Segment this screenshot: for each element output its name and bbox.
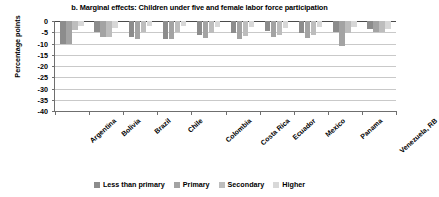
y-tick-label: -25 bbox=[0, 73, 48, 82]
bar bbox=[271, 21, 276, 37]
bar bbox=[197, 21, 202, 35]
x-tick-label: Argentina bbox=[88, 117, 117, 144]
bar-set bbox=[89, 21, 123, 111]
bar bbox=[129, 21, 134, 37]
x-tick-label: Panama bbox=[359, 117, 384, 140]
y-tick-label: -10 bbox=[0, 39, 48, 48]
bar bbox=[203, 21, 208, 38]
x-tick-mark bbox=[226, 111, 227, 115]
bar bbox=[147, 21, 152, 26]
bar bbox=[175, 21, 180, 32]
bar-set bbox=[157, 21, 191, 111]
x-tick-mark bbox=[260, 111, 261, 115]
bar bbox=[317, 21, 322, 27]
bar-set bbox=[294, 21, 328, 111]
bar bbox=[367, 21, 372, 29]
bar bbox=[243, 21, 248, 36]
x-tick-label: Colombia bbox=[224, 117, 252, 144]
bar bbox=[351, 21, 356, 27]
bar bbox=[339, 21, 344, 46]
x-tick-label: Bolivia bbox=[120, 117, 142, 138]
bar bbox=[163, 21, 168, 39]
bar bbox=[237, 21, 242, 39]
bar-group bbox=[226, 21, 260, 111]
x-tick-label: Brazil bbox=[153, 117, 172, 135]
bar bbox=[373, 21, 378, 32]
bar-group bbox=[294, 21, 328, 111]
bar-set bbox=[226, 21, 260, 111]
plot-area: 0-5-10-15-20-25-30-35-40ArgentinaBolivia… bbox=[54, 21, 395, 111]
bar-group bbox=[55, 21, 89, 111]
chart-title: b. Marginal effects: Children under five… bbox=[0, 3, 399, 12]
x-tick-mark bbox=[362, 111, 363, 115]
bar bbox=[181, 21, 186, 26]
bar-set bbox=[55, 21, 89, 111]
bar bbox=[100, 21, 105, 37]
legend-swatch bbox=[94, 182, 100, 188]
legend-label: Less than primary bbox=[103, 180, 165, 189]
bar bbox=[169, 21, 174, 39]
bar bbox=[215, 21, 220, 27]
legend-item[interactable]: Primary bbox=[174, 180, 210, 189]
x-tick-label: Costa Rica bbox=[259, 117, 291, 146]
x-tick-mark bbox=[191, 111, 192, 115]
bar bbox=[209, 21, 214, 33]
x-tick-mark bbox=[396, 111, 397, 115]
bar-group bbox=[362, 21, 396, 111]
y-tick-label: -30 bbox=[0, 84, 48, 93]
bar-set bbox=[328, 21, 362, 111]
x-tick-mark bbox=[89, 111, 90, 115]
y-tick-label: -35 bbox=[0, 95, 48, 104]
bar-set bbox=[260, 21, 294, 111]
y-axis-label: Percentage points bbox=[13, 0, 22, 97]
bar-set bbox=[123, 21, 157, 111]
x-tick-label: Ecuador bbox=[291, 117, 317, 141]
bar bbox=[112, 21, 117, 28]
bar bbox=[249, 21, 254, 27]
bar bbox=[72, 21, 77, 30]
x-tick-label: Mexico bbox=[324, 117, 346, 138]
bar bbox=[106, 21, 111, 37]
x-tick-mark bbox=[55, 111, 56, 115]
bar bbox=[94, 21, 99, 32]
bar-group bbox=[89, 21, 123, 111]
y-tick-label: -20 bbox=[0, 62, 48, 71]
bar bbox=[66, 21, 71, 44]
bar-group bbox=[260, 21, 294, 111]
chart-legend: Less than primaryPrimarySecondaryHigher bbox=[0, 180, 399, 189]
legend-item[interactable]: Higher bbox=[273, 180, 305, 189]
bar bbox=[283, 21, 288, 28]
legend-swatch bbox=[174, 182, 180, 188]
bar bbox=[78, 21, 83, 26]
bar-group bbox=[328, 21, 362, 111]
bar bbox=[231, 21, 236, 33]
legend-item[interactable]: Secondary bbox=[219, 180, 265, 189]
x-tick-mark bbox=[123, 111, 124, 115]
bar bbox=[345, 21, 350, 33]
bar bbox=[141, 21, 146, 32]
bar-set bbox=[362, 21, 396, 111]
legend-label: Higher bbox=[282, 180, 305, 189]
bar bbox=[277, 21, 282, 35]
y-tick-label: -40 bbox=[0, 107, 48, 116]
bar-set bbox=[191, 21, 225, 111]
y-tick-label: -15 bbox=[0, 50, 48, 59]
bar-group bbox=[191, 21, 225, 111]
bar-group bbox=[157, 21, 191, 111]
bar bbox=[265, 21, 270, 31]
bar bbox=[385, 21, 390, 29]
legend-label: Primary bbox=[183, 180, 210, 189]
bar bbox=[299, 21, 304, 33]
bar bbox=[135, 21, 140, 39]
bar bbox=[60, 21, 65, 44]
bar bbox=[311, 21, 316, 35]
x-tick-mark bbox=[294, 111, 295, 115]
legend-swatch bbox=[219, 182, 225, 188]
x-tick-label: Venezuela, RB bbox=[399, 117, 439, 154]
x-tick-mark bbox=[328, 111, 329, 115]
legend-swatch bbox=[273, 182, 279, 188]
legend-label: Secondary bbox=[228, 180, 265, 189]
y-tick-label: -5 bbox=[0, 28, 48, 37]
legend-item[interactable]: Less than primary bbox=[94, 180, 165, 189]
